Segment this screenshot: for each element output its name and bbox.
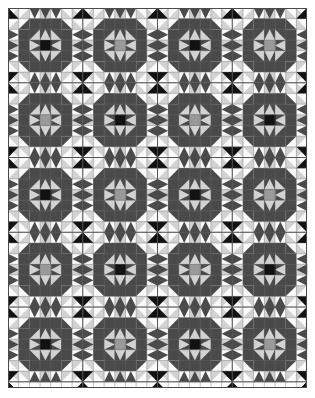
quilt-artwork-canvas bbox=[0, 0, 315, 398]
quilt-page bbox=[0, 0, 315, 398]
